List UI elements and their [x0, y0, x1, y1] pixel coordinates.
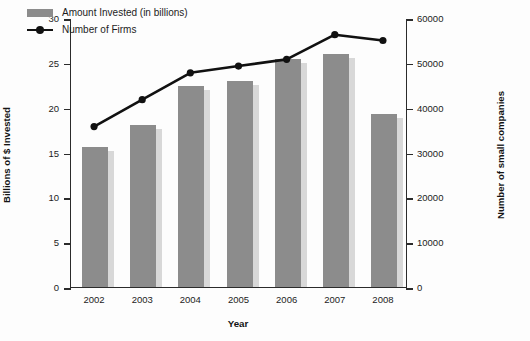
right-tick — [406, 19, 413, 21]
right-tick — [406, 109, 413, 111]
x-tick-label-2002: 2002 — [83, 294, 104, 305]
bar-swatch-icon — [27, 9, 53, 17]
right-tick — [406, 198, 413, 200]
bar-2006 — [275, 59, 301, 287]
x-tick-label-2005: 2005 — [228, 294, 249, 305]
bar-shadow — [397, 118, 403, 287]
right-tick-label: 30000 — [417, 149, 443, 159]
y-axis-title-right: Number of small companies — [495, 91, 506, 219]
bar-2003 — [130, 125, 156, 287]
left-tick — [64, 198, 71, 200]
bar-shadow — [349, 58, 355, 287]
x-tick-label-2008: 2008 — [372, 294, 393, 305]
right-tick — [406, 288, 413, 290]
right-tick — [406, 64, 413, 66]
x-axis-title: Year — [228, 318, 249, 329]
right-tick-label: 40000 — [417, 104, 443, 114]
plot-area — [70, 19, 407, 288]
left-tick — [64, 288, 71, 290]
bar-2008 — [371, 114, 397, 287]
chart-container: Billions of $ Invested Number of small c… — [0, 0, 530, 341]
left-tick-label: 5 — [0, 238, 59, 248]
bar-shadow — [253, 85, 259, 287]
bar-2002 — [82, 147, 108, 287]
bar-2005 — [227, 81, 253, 287]
right-tick-label: 60000 — [417, 14, 443, 24]
x-tick-label-2004: 2004 — [180, 294, 201, 305]
bar-2004 — [178, 86, 204, 287]
left-tick-label: 10 — [0, 194, 59, 204]
right-tick — [406, 154, 413, 156]
left-tick-label: 25 — [0, 59, 59, 69]
chart-legend: Amount Invested (in billions) Number of … — [27, 5, 188, 39]
legend-item-label: Amount Invested (in billions) — [62, 7, 188, 18]
left-tick-label: 0 — [0, 283, 59, 293]
x-tick-label-2006: 2006 — [276, 294, 297, 305]
left-tick-label: 20 — [0, 104, 59, 114]
bar-2007 — [323, 54, 349, 287]
left-tick-label: 15 — [0, 149, 59, 159]
legend-item-amount-invested: Amount Invested (in billions) — [27, 5, 188, 20]
right-tick-label: 10000 — [417, 238, 443, 248]
left-tick — [64, 64, 71, 66]
line-marker-icon — [27, 25, 53, 35]
right-tick-label: 50000 — [417, 59, 443, 69]
legend-item-number-of-firms: Number of Firms — [27, 22, 188, 37]
right-tick-label: 20000 — [417, 194, 443, 204]
left-tick — [64, 243, 71, 245]
left-tick — [64, 109, 71, 111]
x-tick-label-2003: 2003 — [132, 294, 153, 305]
right-tick-label: 0 — [417, 283, 422, 293]
right-tick — [406, 243, 413, 245]
bar-shadow — [204, 90, 210, 287]
x-tick-label-2007: 2007 — [324, 294, 345, 305]
bar-shadow — [301, 63, 307, 287]
bar-shadow — [108, 151, 114, 287]
bar-shadow — [156, 129, 162, 287]
left-tick — [64, 154, 71, 156]
legend-item-label: Number of Firms — [62, 24, 136, 35]
